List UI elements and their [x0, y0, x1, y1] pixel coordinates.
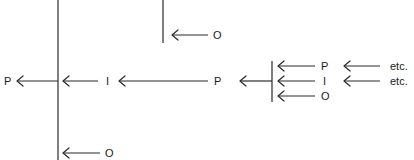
arrow-from-i	[63, 76, 98, 86]
arrow-to-root-p	[17, 76, 58, 86]
label-right-o: O	[321, 90, 330, 102]
arrow-right-o	[278, 91, 315, 101]
label-bottom-o: O	[105, 147, 114, 159]
pio-decomposition-diagram: O P I P P I O etc. etc.	[0, 0, 414, 160]
label-right-p: P	[321, 60, 328, 72]
label-top-o: O	[213, 29, 222, 41]
label-etc-2: etc.	[390, 75, 408, 87]
label-root-p: P	[4, 75, 11, 87]
arrow-from-main-p	[119, 76, 208, 86]
arrow-right-p	[278, 61, 315, 71]
label-etc-1: etc.	[390, 60, 408, 72]
arrow-etc-1	[344, 61, 380, 71]
arrow-bottom-o	[63, 148, 100, 158]
arrow-from-right-bar	[240, 76, 272, 86]
label-main-p: P	[214, 75, 221, 87]
label-main-i: I	[106, 75, 109, 87]
arrow-right-i	[278, 76, 315, 86]
arrow-top-o	[172, 30, 208, 40]
label-right-i: I	[323, 75, 326, 87]
arrow-etc-2	[344, 76, 380, 86]
